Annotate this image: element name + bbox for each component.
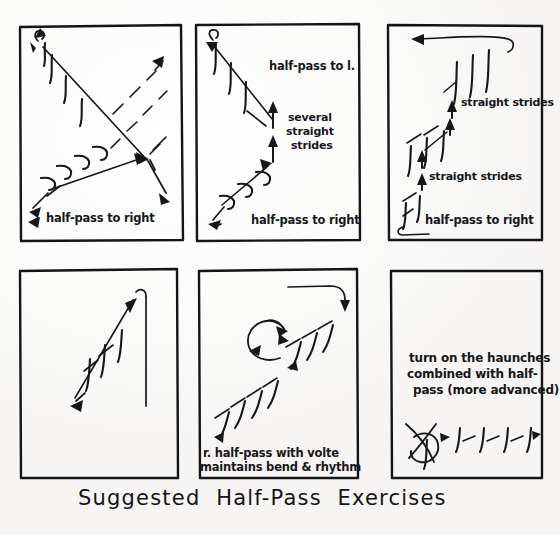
panel-5-label-line1: r. half-pass with volte bbox=[203, 447, 339, 459]
panel-4-drawing bbox=[20, 269, 178, 478]
panel-2-label-half-pass-right: half-pass to right bbox=[251, 214, 359, 226]
panel-1-drawing bbox=[20, 25, 183, 241]
panel-3-label-half-pass-right: half-pass to right bbox=[425, 214, 533, 226]
panel-1-label-half-pass-right: half-pass to right bbox=[46, 212, 154, 224]
panel-2-label-straight: straight bbox=[286, 126, 334, 138]
panel-2-label-strides: strides bbox=[291, 140, 332, 152]
panel-6-label-line2: combined with half- bbox=[407, 368, 538, 381]
panel-6-label-line3: pass (more advanced) bbox=[413, 384, 559, 397]
panel-3-label-straight-strides-lower: straight strides bbox=[429, 171, 522, 183]
panel-2-drawing bbox=[196, 24, 360, 241]
panel-6-label-line1: turn on the haunches bbox=[409, 352, 550, 365]
panel-2-label-half-pass-left: half-pass to l. bbox=[269, 60, 355, 72]
page-title: Suggested Half-Pass Exercises bbox=[78, 486, 447, 510]
panel-2-label-several: several bbox=[288, 112, 332, 124]
panel-5-label-line2: maintains bend & rhythm bbox=[200, 461, 361, 473]
panel-3-drawing bbox=[388, 25, 542, 240]
panel-3-label-straight-strides-upper: straight strides bbox=[461, 97, 554, 109]
diagram-sheet: half-pass to right half-pass to l. sever… bbox=[0, 0, 560, 535]
